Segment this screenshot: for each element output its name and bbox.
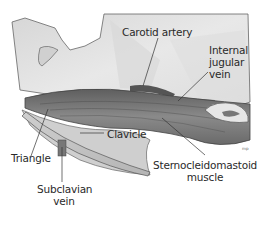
- label-internal-jugular-line3: vein: [209, 68, 248, 80]
- label-subclavian-line2: vein: [37, 195, 91, 207]
- label-subclavian-vein: Subclavian vein: [37, 183, 91, 207]
- label-clavicle: Clavicle: [107, 128, 146, 140]
- label-scm-line2: muscle: [153, 171, 257, 183]
- label-triangle: Triangle: [11, 152, 51, 164]
- label-subclavian-line1: Subclavian: [37, 183, 91, 195]
- label-sternocleidomastoid-muscle: Sternocleidomastoid muscle: [153, 159, 257, 183]
- label-internal-jugular-vein: Internal jugular vein: [209, 44, 248, 80]
- label-carotid-artery: Carotid artery: [122, 26, 192, 38]
- label-internal-jugular-line1: Internal: [209, 44, 248, 56]
- label-internal-jugular-line2: jugular: [209, 56, 248, 68]
- artist-signature: mp: [242, 146, 248, 151]
- label-scm-line1: Sternocleidomastoid: [153, 159, 257, 171]
